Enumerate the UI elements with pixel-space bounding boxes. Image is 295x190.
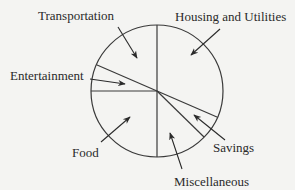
boundary-savings-miscellaneous bbox=[157, 91, 204, 137]
label-transportation: Transportation bbox=[38, 8, 115, 23]
arrow-housing bbox=[191, 29, 220, 55]
label-entertainment: Entertainment bbox=[10, 68, 84, 83]
pie-chart: Transportation Housing and Utilities Ent… bbox=[0, 0, 295, 190]
arrow-entertainment bbox=[90, 79, 125, 84]
arrow-food bbox=[101, 117, 130, 142]
arrow-savings bbox=[194, 115, 225, 140]
label-housing-and-utilities: Housing and Utilities bbox=[175, 9, 286, 24]
label-savings: Savings bbox=[213, 140, 254, 155]
label-food: Food bbox=[72, 145, 99, 160]
label-miscellaneous: Miscellaneous bbox=[174, 174, 249, 189]
arrow-miscellaneous bbox=[170, 133, 182, 169]
